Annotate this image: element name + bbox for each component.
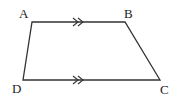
vertex-label-a: A [19, 6, 29, 21]
trapezium-abcd [23, 22, 160, 80]
trapezium-diagram: A B D C [0, 0, 178, 97]
vertex-label-d: D [12, 81, 21, 96]
vertex-label-c: C [160, 82, 169, 97]
vertex-label-b: B [124, 6, 133, 21]
